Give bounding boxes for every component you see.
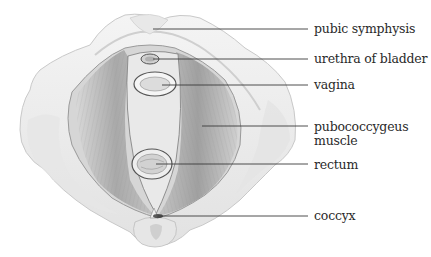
- label-muscle: muscle: [314, 134, 358, 148]
- label-pubococcygeus: pubococcygeus: [314, 120, 408, 134]
- label-urethra-of-bladder: urethra of bladder: [314, 52, 427, 66]
- vagina-opening: [134, 72, 176, 96]
- label-pubic-symphysis: pubic symphysis: [314, 22, 415, 36]
- pelvic-floor-diagram: pubic symphysis urethra of bladder vagin…: [0, 0, 431, 257]
- label-rectum: rectum: [314, 158, 358, 172]
- label-coccyx: coccyx: [314, 209, 355, 223]
- label-vagina: vagina: [314, 78, 355, 92]
